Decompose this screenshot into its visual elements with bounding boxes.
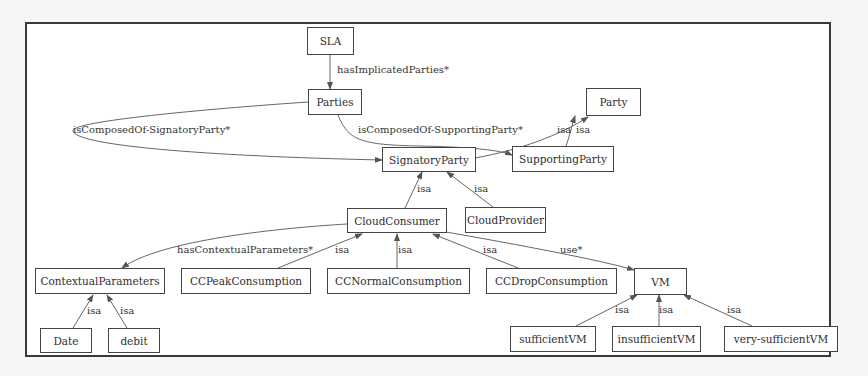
edge-verysufficient-vm xyxy=(684,295,752,326)
node-vm: VM xyxy=(634,268,687,295)
node-cc-drop-consumption: CCDropConsumption xyxy=(486,268,617,294)
label-isa-debit: isa xyxy=(120,305,134,316)
node-sufficient-vm: sufficientVM xyxy=(510,326,596,352)
node-sla: SLA xyxy=(307,27,354,55)
edge-drop-consumer xyxy=(433,234,518,268)
node-signatory-party: SignatoryParty xyxy=(382,147,476,172)
label-isa-very-sufficient: isa xyxy=(727,304,741,315)
node-cloud-consumer: CloudConsumer xyxy=(347,208,447,233)
label-isa-date: isa xyxy=(87,305,101,316)
node-cc-normal-consumption: CCNormalConsumption xyxy=(327,268,470,294)
label-has-implicated-parties: hasImplicatedParties* xyxy=(337,64,449,75)
node-insufficient-vm: insufficientVM xyxy=(612,326,701,352)
label-isa-provider-signatory: isa xyxy=(474,183,488,194)
label-isa-consumer-signatory: isa xyxy=(417,183,431,194)
label-composed-supporting: isComposedOf-SupportingParty* xyxy=(358,124,523,135)
label-isa-signatory-party: isa xyxy=(557,124,571,135)
edges-layer xyxy=(0,0,868,376)
label-isa-insufficient: isa xyxy=(659,304,673,315)
node-party: Party xyxy=(586,88,641,116)
label-isa-drop: isa xyxy=(483,244,497,255)
label-isa-supporting-party: isa xyxy=(576,124,590,135)
node-cc-peak-consumption: CCPeakConsumption xyxy=(181,268,311,294)
node-contextual-parameters: ContextualParameters xyxy=(35,268,165,294)
node-cloud-provider: CloudProvider xyxy=(465,207,546,233)
node-very-sufficient-vm: very-sufficientVM xyxy=(724,326,838,352)
label-isa-normal: isa xyxy=(398,244,412,255)
label-isa-sufficient: isa xyxy=(615,304,629,315)
label-use: use* xyxy=(560,244,583,255)
node-parties: Parties xyxy=(308,89,362,115)
node-supporting-party: SupportingParty xyxy=(512,146,614,172)
node-date: Date xyxy=(40,328,92,353)
label-isa-peak: isa xyxy=(335,244,349,255)
label-has-contextual-parameters: hasContextualParameters* xyxy=(177,244,313,255)
node-debit: debit xyxy=(108,328,160,353)
label-composed-signatory: isComposedOf-SignatoryParty* xyxy=(73,124,230,135)
